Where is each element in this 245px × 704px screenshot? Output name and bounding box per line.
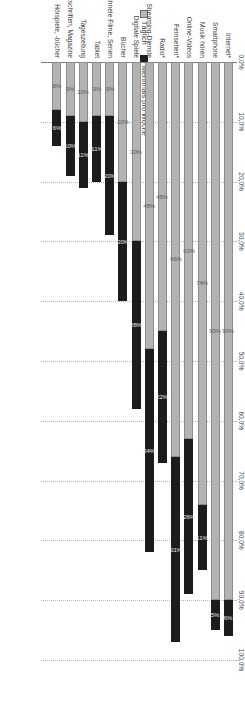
category-label: Fernsehen*: [172, 24, 179, 58]
bar-value-label: 90%: [223, 328, 235, 334]
bar-segment: 20%: [105, 116, 114, 236]
bar-row: Tageszeitung10%11%: [77, 62, 90, 660]
bar-row: Streaming-Dienste48%34%: [143, 62, 156, 660]
bar-segment: 90%: [224, 62, 233, 600]
chart-canvas: Täglich Mehrmals pro Woche 0,0%10,0%20,0…: [0, 0, 245, 704]
bar-value-label: 11%: [78, 152, 89, 158]
bar-rows: Internet*90%6%Smartphone90%5%Musik hören…: [41, 62, 237, 660]
chart-figure: Täglich Mehrmals pro Woche 0,0%10,0%20,0…: [0, 0, 245, 704]
plot-area: 0,0%10,0%20,0%30,0%40,0%50,0%60,0%70,0%8…: [41, 62, 237, 660]
bar-segment: 74%: [198, 62, 207, 505]
bar-value-label: 9%: [92, 86, 100, 92]
bar-value-label: 20%: [104, 173, 116, 179]
bar-segment: 34%: [145, 349, 154, 552]
bar-value-label: 31%: [170, 546, 182, 552]
bar-value-label: 20%: [117, 119, 129, 125]
category-label: Hörspiele, -bücher: [53, 4, 60, 58]
bar-value-label: 28%: [130, 322, 142, 328]
tick-label-70: 70,0%: [238, 471, 245, 490]
bar-value-label: 11%: [196, 534, 207, 540]
bar-segment: 8%: [52, 62, 61, 110]
stacked-bar: 90%6%: [224, 62, 233, 636]
tick-label-30: 30,0%: [238, 232, 245, 251]
tick-label-50: 50,0%: [238, 352, 245, 371]
stacked-bar: 8%6%: [52, 62, 61, 146]
stacked-bar: 9%10%: [66, 62, 75, 176]
bar-value-label: 8%: [53, 83, 61, 89]
bar-value-label: 90%: [209, 328, 221, 334]
bar-value-label: 34%: [143, 448, 155, 454]
tick-label-20: 20,0%: [238, 172, 245, 191]
bar-row: Radio*45%22%: [156, 62, 169, 660]
bar-value-label: 22%: [157, 394, 169, 400]
bar-segment: 45%: [158, 62, 167, 331]
bar-row: Tablet9%11%: [90, 62, 103, 660]
bar-value-label: 63%: [183, 247, 195, 253]
stacked-bar: 63%26%: [184, 62, 193, 594]
bar-segment: 66%: [171, 62, 180, 457]
bar-segment: 20%: [118, 62, 127, 182]
bar-value-label: 30%: [130, 149, 142, 155]
bar-segment: 11%: [92, 116, 101, 182]
bar-segment: 10%: [66, 116, 75, 176]
tick-label-90: 90,0%: [238, 591, 245, 610]
bar-row: Musik hören74%11%: [195, 62, 208, 660]
bar-value-label: 9%: [105, 86, 113, 92]
tick-label-0: 0,0%: [238, 54, 245, 69]
gridline-100: [41, 660, 237, 661]
category-label: Bücher: [119, 37, 126, 58]
bar-segment: 26%: [184, 439, 193, 594]
bar-segment: 22%: [158, 331, 167, 463]
bar-segment: 6%: [224, 600, 233, 636]
bar-segment: 11%: [79, 122, 88, 188]
category-label: Musik hören: [199, 22, 206, 58]
bar-segment: 28%: [132, 241, 141, 408]
category-label: Tageszeitung: [80, 19, 87, 58]
stacked-bar: 90%5%: [211, 62, 220, 630]
category-label: Tablet: [93, 40, 100, 58]
stacked-bar: 9%11%: [92, 62, 101, 182]
stacked-bar: 66%31%: [171, 62, 180, 642]
bar-value-label: 6%: [224, 615, 232, 621]
bar-row: Fernsehen*66%31%: [169, 62, 182, 660]
bar-segment: 90%: [211, 62, 220, 600]
category-label: Online-Videos: [185, 17, 192, 58]
bar-row: Digitale Spiele30%28%: [130, 62, 143, 660]
category-label: DVD, Blu-ays, aufgezeichnete Filme, Seri…: [106, 0, 113, 58]
stacked-bar: 45%22%: [158, 62, 167, 463]
bar-segment: 48%: [145, 62, 154, 349]
bar-row: Internet*90%6%: [222, 62, 235, 660]
bar-value-label: 9%: [66, 86, 74, 92]
bar-segment: 63%: [184, 62, 193, 439]
bar-value-label: 20%: [117, 238, 129, 244]
bar-segment: 6%: [52, 110, 61, 146]
category-label: Digitale Spiele: [133, 16, 140, 58]
bar-row: Smartphone90%5%: [209, 62, 222, 660]
bar-segment: 10%: [79, 62, 88, 122]
bar-segment: 31%: [171, 457, 180, 642]
bar-row: DVD, Blu-ays, aufgezeichnete Filme, Seri…: [103, 62, 116, 660]
category-label: Smartphone: [212, 22, 219, 58]
bar-segment: 11%: [198, 505, 207, 571]
bar-value-label: 66%: [170, 256, 182, 262]
category-label: Radio*: [159, 38, 166, 58]
tick-label-10: 10,0%: [238, 112, 245, 131]
bar-value-label: 11%: [91, 146, 102, 152]
bar-segment: 30%: [132, 62, 141, 241]
stacked-bar: 30%28%: [132, 62, 141, 409]
bar-row: Zeitschriften, Magazine9%10%: [64, 62, 77, 660]
bar-segment: 5%: [211, 600, 220, 630]
tick-label-60: 60,0%: [238, 411, 245, 430]
stacked-bar: 48%34%: [145, 62, 154, 552]
bar-value-label: 48%: [143, 203, 155, 209]
bar-segment: 20%: [118, 182, 127, 302]
bar-row: Bücher20%20%: [116, 62, 129, 660]
stacked-bar: 10%11%: [79, 62, 88, 188]
bar-segment: 9%: [105, 62, 114, 116]
bar-value-label: 6%: [53, 125, 61, 131]
bar-segment: 9%: [92, 62, 101, 116]
category-label: Internet*: [225, 33, 232, 58]
stacked-bar: 20%20%: [118, 62, 127, 301]
bar-row: Hörspiele, -bücher8%6%: [50, 62, 63, 660]
tick-label-40: 40,0%: [238, 292, 245, 311]
